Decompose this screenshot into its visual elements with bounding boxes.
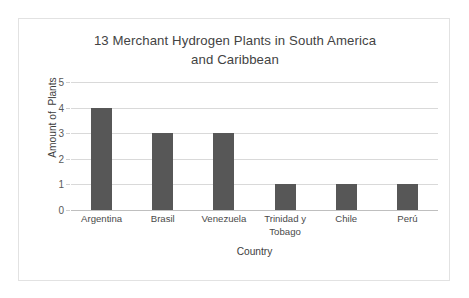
y-tick-mark [66,82,70,83]
y-tick-label: 0 [58,205,64,216]
y-tick-mark [66,210,70,211]
bar-slot [193,82,254,210]
x-axis-title: Country [71,246,438,257]
x-tick-label: Chile [316,213,377,226]
y-axis-title: Amount of Plants [47,58,58,178]
y-tick-mark [66,159,70,160]
bar-slot [377,82,438,210]
plot-area: 012345 [71,82,438,210]
bar-slot [316,82,377,210]
y-tick-label: 2 [58,153,64,164]
chart-figure-frame: 13 Merchant Hydrogen Plants in South Ame… [18,18,450,281]
y-tick-mark [66,184,70,185]
bar[interactable] [397,184,418,210]
bar[interactable] [213,133,234,210]
bar-series [71,82,438,210]
bar-slot [132,82,193,210]
bar-slot [71,82,132,210]
x-tick-label: Venezuela [193,213,254,226]
bar-slot [255,82,316,210]
y-tick-label: 4 [58,102,64,113]
bar[interactable] [336,184,357,210]
x-tick-label: Perú [377,213,438,226]
x-tick-label: Brasil [132,213,193,226]
y-tick-mark [66,108,70,109]
y-tick-label: 1 [58,179,64,190]
x-tick-label: Argentina [71,213,132,226]
chart-title: 13 Merchant Hydrogen Plants in South Ame… [49,31,421,69]
bar[interactable] [91,108,112,210]
y-tick-mark [66,133,70,134]
bar[interactable] [275,184,296,210]
bar[interactable] [152,133,173,210]
y-tick-label: 5 [58,77,64,88]
y-tick-label: 3 [58,128,64,139]
x-tick-label: Trinidad y Tobago [255,213,316,238]
gridline [71,210,438,211]
